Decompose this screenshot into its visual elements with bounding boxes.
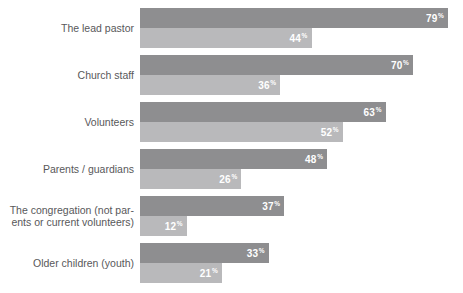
bar-value-label: 33% xyxy=(247,247,265,259)
chart-row: Volunteers63%52% xyxy=(0,102,463,142)
chart-row: Church staff70%36% xyxy=(0,55,463,95)
bar-group: 37%12% xyxy=(140,196,463,236)
bar-value-label: 63% xyxy=(364,106,382,118)
bar-value-label: 52% xyxy=(321,126,339,138)
bar-value-number: 37 xyxy=(262,201,274,212)
chart-row: Parents / guardians48%26% xyxy=(0,149,463,189)
bar-value-number: 44 xyxy=(290,33,302,44)
category-label: The congregation (not par- ents or curre… xyxy=(0,204,140,229)
bar-group: 70%36% xyxy=(140,55,463,95)
bar-primary: 63% xyxy=(140,102,386,122)
percent-symbol: % xyxy=(302,32,308,39)
bar-secondary: 44% xyxy=(140,28,312,48)
category-label: Parents / guardians xyxy=(0,163,140,176)
bar-group: 63%52% xyxy=(140,102,463,142)
bar-value-label: 70% xyxy=(391,59,409,71)
bar-value-label: 26% xyxy=(219,173,237,185)
bar-value-label: 37% xyxy=(262,200,280,212)
percent-symbol: % xyxy=(438,12,444,19)
percent-symbol: % xyxy=(403,59,409,66)
bar-secondary: 52% xyxy=(140,122,343,142)
bar-primary: 48% xyxy=(140,149,327,169)
percent-symbol: % xyxy=(333,126,339,133)
percent-symbol: % xyxy=(317,153,323,160)
bar-secondary: 26% xyxy=(140,169,241,189)
category-label: Volunteers xyxy=(0,116,140,129)
horizontal-bar-chart: The lead pastor79%44%Church staff70%36%V… xyxy=(0,0,463,293)
bar-secondary: 21% xyxy=(140,263,222,283)
bar-value-number: 36 xyxy=(258,80,270,91)
bar-value-label: 79% xyxy=(426,12,444,24)
percent-symbol: % xyxy=(270,79,276,86)
chart-row: The congregation (not par- ents or curre… xyxy=(0,196,463,236)
bar-value-number: 48 xyxy=(305,154,317,165)
bar-primary: 37% xyxy=(140,196,284,216)
bar-primary: 79% xyxy=(140,8,448,28)
bar-value-number: 33 xyxy=(247,248,259,259)
bar-value-label: 12% xyxy=(165,220,183,232)
bar-group: 33%21% xyxy=(140,243,463,283)
bar-primary: 70% xyxy=(140,55,413,75)
bar-value-number: 12 xyxy=(165,221,177,232)
category-label: The lead pastor xyxy=(0,22,140,35)
bar-primary: 33% xyxy=(140,243,269,263)
bar-value-label: 48% xyxy=(305,153,323,165)
bar-group: 48%26% xyxy=(140,149,463,189)
bar-value-number: 79 xyxy=(426,13,438,24)
bar-secondary: 12% xyxy=(140,216,187,236)
bar-value-number: 63 xyxy=(364,107,376,118)
percent-symbol: % xyxy=(212,267,218,274)
bar-value-label: 36% xyxy=(258,79,276,91)
category-label: Church staff xyxy=(0,69,140,82)
bar-group: 79%44% xyxy=(140,8,463,48)
percent-symbol: % xyxy=(177,220,183,227)
bar-value-label: 21% xyxy=(200,267,218,279)
chart-row: Older children (youth)33%21% xyxy=(0,243,463,283)
bar-secondary: 36% xyxy=(140,75,280,95)
bar-value-number: 70 xyxy=(391,60,403,71)
bar-value-number: 52 xyxy=(321,127,333,138)
chart-row: The lead pastor79%44% xyxy=(0,8,463,48)
percent-symbol: % xyxy=(231,173,237,180)
bar-value-label: 44% xyxy=(290,32,308,44)
percent-symbol: % xyxy=(376,106,382,113)
percent-symbol: % xyxy=(274,200,280,207)
bar-value-number: 21 xyxy=(200,268,212,279)
percent-symbol: % xyxy=(259,247,265,254)
bar-value-number: 26 xyxy=(219,174,231,185)
category-label: Older children (youth) xyxy=(0,257,140,270)
